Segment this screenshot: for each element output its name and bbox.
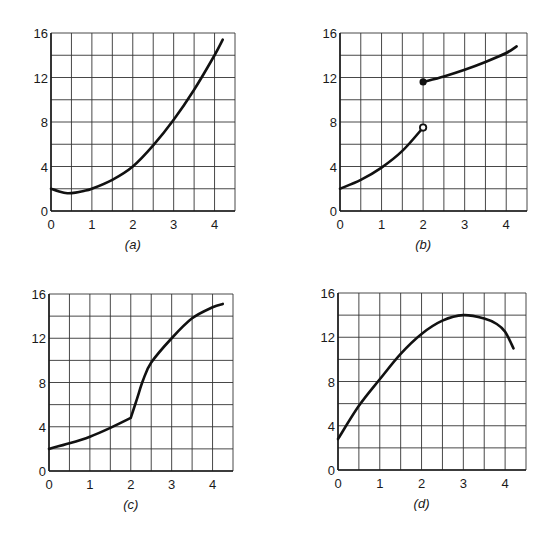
y-tick-label: 16 bbox=[321, 286, 335, 301]
x-tick-label: 2 bbox=[418, 476, 425, 491]
x-tick-label: 3 bbox=[460, 476, 467, 491]
data-curve bbox=[338, 315, 513, 439]
chart-d: 012340481216(d) bbox=[0, 0, 553, 533]
chart-caption: (d) bbox=[414, 496, 430, 511]
grid bbox=[338, 293, 526, 470]
x-tick-label: 1 bbox=[376, 476, 383, 491]
y-tick-label: 4 bbox=[328, 419, 335, 434]
y-tick-label: 0 bbox=[328, 463, 335, 478]
y-tick-label: 8 bbox=[328, 375, 335, 390]
chart-d-svg: 012340481216(d) bbox=[0, 0, 553, 533]
y-tick-label: 12 bbox=[321, 330, 335, 345]
x-tick-label: 0 bbox=[334, 476, 341, 491]
x-tick-label: 4 bbox=[501, 476, 508, 491]
